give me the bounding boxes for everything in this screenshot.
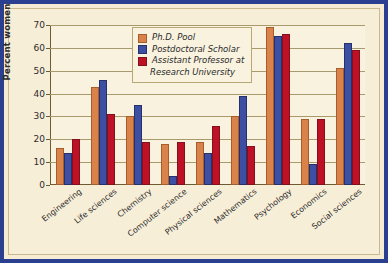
y-axis-tick-label: 70 — [34, 20, 45, 30]
x-axis-tick-labels: EngineeringLife sciencesChemistryCompute… — [50, 187, 365, 263]
y-axis-tick-label: 0 — [39, 180, 45, 190]
bar — [64, 153, 72, 185]
bar — [177, 142, 185, 185]
bar — [247, 146, 255, 185]
bar-group — [301, 25, 325, 185]
bar — [99, 80, 107, 185]
bar — [107, 114, 115, 185]
bar — [72, 139, 80, 185]
y-axis-tick-mark — [46, 185, 50, 186]
bar — [204, 153, 212, 185]
bar — [169, 176, 177, 185]
bar — [352, 50, 360, 185]
y-axis-tick-label: 60 — [34, 43, 45, 53]
bar — [161, 144, 169, 185]
bar-group — [56, 25, 80, 185]
legend-item: Postdoctoral Scholar — [138, 44, 244, 55]
y-axis-tick-label: 10 — [34, 157, 45, 167]
chart-legend: Ph.D. Pool Postdoctoral Scholar Assistan… — [132, 27, 252, 83]
bar — [134, 105, 142, 185]
bar — [309, 164, 317, 185]
y-axis-tick-label: 30 — [34, 111, 45, 121]
legend-item: Assistant Professor at — [138, 55, 244, 66]
legend-swatch-icon — [138, 57, 147, 66]
x-axis-tick-label: Psychology — [252, 187, 293, 222]
bar — [282, 34, 290, 185]
bar-group — [266, 25, 290, 185]
legend-label: Assistant Professor at — [152, 55, 244, 65]
y-axis-title: Percent women — [2, 0, 12, 112]
legend-label: Ph.D. Pool — [152, 32, 195, 42]
y-axis-tick-label: 20 — [34, 134, 45, 144]
x-axis-tick-label: Computer science — [125, 187, 188, 239]
legend-swatch-icon — [138, 34, 147, 43]
bar-group — [91, 25, 115, 185]
bar — [301, 119, 309, 185]
bar — [266, 27, 274, 185]
bar — [274, 36, 282, 185]
bar — [126, 116, 134, 185]
bar — [231, 116, 239, 185]
bar — [196, 142, 204, 185]
bar — [239, 96, 247, 185]
chart-figure: Percent women 010203040506070 Engineerin… — [0, 0, 388, 263]
y-axis-tick-label: 40 — [34, 89, 45, 99]
bar — [344, 43, 352, 185]
legend-label: Postdoctoral Scholar — [152, 44, 239, 54]
legend-swatch-icon — [138, 45, 147, 54]
legend-item: Ph.D. Pool — [138, 32, 244, 43]
legend-label-continued: Research University — [150, 67, 244, 77]
bar — [336, 68, 344, 185]
bar — [56, 148, 64, 185]
bar-group — [336, 25, 360, 185]
y-axis-tick-label: 50 — [34, 66, 45, 76]
bar — [212, 126, 220, 185]
bar — [91, 87, 99, 185]
bar — [317, 119, 325, 185]
bar — [142, 142, 150, 185]
